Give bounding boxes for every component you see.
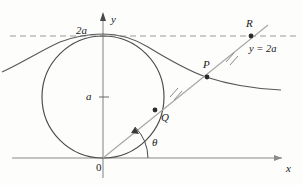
witch-of-agnesi-diagram bbox=[0, 0, 303, 185]
point-p-marker bbox=[205, 75, 210, 80]
point-q-marker bbox=[153, 108, 158, 113]
y-tick-label-a: a bbox=[86, 91, 92, 102]
y-axis bbox=[100, 12, 106, 178]
origin-label: 0 bbox=[96, 162, 102, 173]
construction-ray bbox=[103, 25, 268, 158]
figure-container: y x 2a a 0 Q P R y = 2a θ bbox=[0, 0, 303, 185]
angle-theta-label: θ bbox=[152, 137, 157, 148]
y-tick-label-2a: 2a bbox=[76, 25, 87, 36]
hatch-oq bbox=[170, 88, 182, 100]
hatch-pr bbox=[226, 53, 238, 65]
point-q-label: Q bbox=[161, 112, 169, 123]
point-p-label: P bbox=[203, 59, 210, 70]
point-r-marker bbox=[249, 34, 254, 39]
y-axis-label: y bbox=[111, 14, 116, 25]
x-axis-label: x bbox=[286, 163, 291, 174]
point-r-label: R bbox=[246, 18, 253, 29]
x-axis bbox=[12, 155, 282, 161]
asymptote-label: y = 2a bbox=[249, 44, 277, 55]
